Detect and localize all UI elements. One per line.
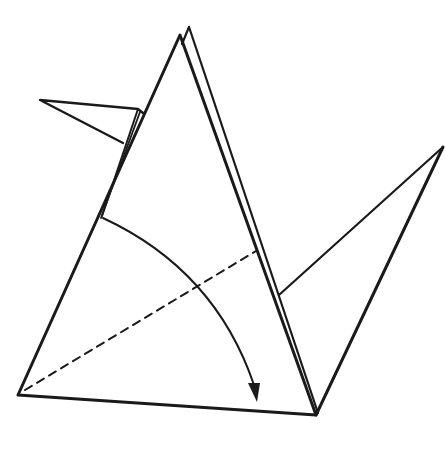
tail-flap bbox=[279, 147, 443, 415]
origami-diagram bbox=[0, 0, 445, 450]
diagram-canvas bbox=[0, 0, 445, 450]
arrow-head-icon bbox=[248, 383, 260, 402]
back-layer-flap bbox=[182, 27, 318, 413]
head-beak-flap bbox=[40, 100, 143, 216]
main-body-triangle bbox=[18, 35, 316, 415]
fold-direction-arrow bbox=[103, 218, 254, 385]
fold-line-dashed bbox=[25, 251, 256, 390]
